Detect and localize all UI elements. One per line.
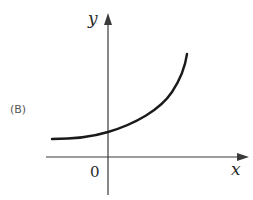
y-axis-arrow-icon xyxy=(104,13,112,25)
exponential-curve xyxy=(52,54,187,139)
y-axis-label: y xyxy=(88,8,98,28)
option-label: (B) xyxy=(10,103,26,116)
graph xyxy=(0,0,253,200)
x-axis-label: x xyxy=(231,159,241,179)
origin-label: 0 xyxy=(90,163,100,181)
